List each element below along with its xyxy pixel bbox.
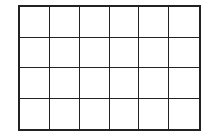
grid-cell xyxy=(50,7,80,38)
grid-cell xyxy=(20,7,50,38)
grid-cell xyxy=(169,68,199,99)
grid-cell xyxy=(80,99,110,130)
grid-cell xyxy=(80,38,110,69)
grid-cell xyxy=(20,68,50,99)
grid-cell xyxy=(50,99,80,130)
grid-cell xyxy=(50,68,80,99)
grid-diagram xyxy=(18,5,201,131)
grid-cell xyxy=(139,38,169,69)
grid-cell xyxy=(139,99,169,130)
grid-cell xyxy=(110,68,140,99)
grid-cell xyxy=(80,7,110,38)
grid-cell xyxy=(80,68,110,99)
grid-cell xyxy=(169,38,199,69)
grid-cell xyxy=(169,99,199,130)
grid-cell xyxy=(139,7,169,38)
grid-cell xyxy=(110,7,140,38)
grid-cell xyxy=(110,99,140,130)
grid-cell xyxy=(50,38,80,69)
grid-cell xyxy=(169,7,199,38)
grid-cell xyxy=(139,68,169,99)
grid-cell xyxy=(20,99,50,130)
grid-cell xyxy=(110,38,140,69)
grid-cell xyxy=(20,38,50,69)
